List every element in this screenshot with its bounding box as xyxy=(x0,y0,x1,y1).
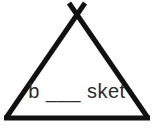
triangle-diagram-svg xyxy=(0,0,154,131)
word-puzzle-figure: b ___ sket xyxy=(0,0,154,131)
figure-background xyxy=(0,0,154,131)
